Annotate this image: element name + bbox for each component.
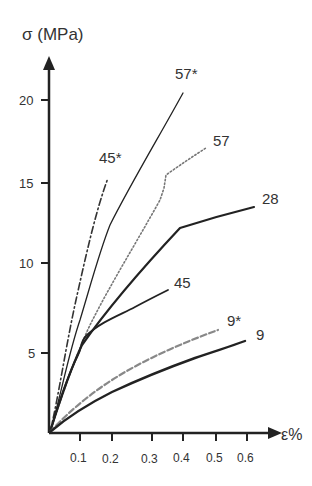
- y-axis-arrow-icon: [43, 56, 55, 70]
- x-tick-0.6: 0.6: [237, 451, 254, 465]
- curve-9: [50, 341, 245, 432]
- y-axis-label: σ (MPa): [22, 25, 84, 44]
- x-tick-0.5: 0.5: [206, 451, 223, 465]
- x-axis-arrow-icon: [268, 427, 282, 439]
- x-tick-0.3: 0.3: [141, 452, 158, 466]
- y-tick-15: 15: [19, 176, 33, 191]
- x-axis-label: ε%: [281, 426, 302, 443]
- label-57-star: 57*: [175, 65, 198, 82]
- x-tick-0.2: 0.2: [102, 452, 119, 466]
- label-9: 9: [256, 326, 264, 343]
- x-tick-0.4: 0.4: [173, 451, 190, 465]
- label-57: 57: [213, 132, 230, 149]
- y-tick-10: 10: [19, 256, 33, 271]
- y-axis: 20 15 10 5: [19, 56, 55, 433]
- label-9-star: 9*: [227, 312, 241, 329]
- label-45: 45: [174, 274, 191, 291]
- x-tick-0.1: 0.1: [70, 451, 87, 465]
- curve-45-star: [50, 178, 108, 432]
- stress-strain-chart: σ (MPa) ε% 20 15 10 5 0.1 0.2 0.3 0.4 0.…: [0, 0, 312, 486]
- y-tick-5: 5: [28, 346, 35, 361]
- label-28: 28: [262, 190, 279, 207]
- curve-57-star: [50, 93, 183, 432]
- x-axis: 0.1 0.2 0.3 0.4 0.5 0.6: [49, 427, 282, 466]
- y-tick-20: 20: [19, 93, 33, 108]
- label-45-star: 45*: [99, 149, 122, 166]
